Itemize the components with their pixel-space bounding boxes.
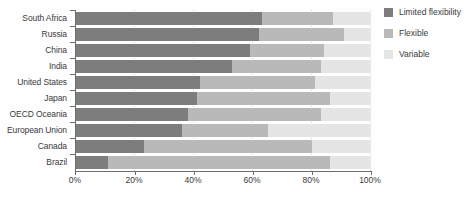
y-axis-category-labels: South AfricaRussiaChinaIndiaUnited State…: [0, 10, 70, 171]
x-axis-tick-label: 40%: [176, 175, 210, 186]
category-label-india: India: [0, 60, 67, 73]
bar-row-russia: [76, 28, 371, 41]
bar-row-european-union: [76, 124, 371, 137]
bar-segment-limited-flexibility: [76, 12, 262, 25]
bar-segment-flexible: [232, 60, 321, 73]
bar-segment-flexible: [262, 12, 333, 25]
y-axis-tick: [70, 90, 75, 91]
bar-segment-limited-flexibility: [76, 92, 197, 105]
bar-segment-variable: [321, 108, 371, 121]
bar-row-china: [76, 44, 371, 57]
bar-row-japan: [76, 92, 371, 105]
stacked-bar-chart: South AfricaRussiaChinaIndiaUnited State…: [0, 0, 473, 205]
bar-segment-flexible: [197, 92, 330, 105]
bar-segment-variable: [333, 12, 371, 25]
bar-segment-limited-flexibility: [76, 140, 144, 153]
bar-segment-variable: [330, 92, 371, 105]
bar-row-canada: [76, 140, 371, 153]
x-axis-tick-label: 80%: [294, 175, 328, 186]
legend-item-limited-flexibility: Limited flexibility: [384, 8, 461, 17]
bar-segment-flexible: [144, 140, 312, 153]
y-axis-tick: [70, 138, 75, 139]
legend-item-variable: Variable: [384, 50, 461, 59]
bar-segment-variable: [324, 44, 371, 57]
y-axis-tick: [70, 58, 75, 59]
bar-segment-flexible: [200, 76, 315, 89]
bar-segment-variable: [344, 28, 371, 41]
legend: Limited flexibilityFlexibleVariable: [384, 8, 461, 59]
bar-row-oecd-oceania: [76, 108, 371, 121]
bar-segment-variable: [315, 76, 371, 89]
bar-row-india: [76, 60, 371, 73]
legend-label: Variable: [399, 50, 430, 59]
category-label-south-africa: South Africa: [0, 12, 67, 25]
y-axis-tick: [70, 74, 75, 75]
category-label-canada: Canada: [0, 140, 67, 153]
category-label-brazil: Brazil: [0, 156, 67, 169]
bar-segment-variable: [268, 124, 371, 137]
x-axis-tick-label: 20%: [117, 175, 151, 186]
category-label-russia: Russia: [0, 28, 67, 41]
bar-segment-flexible: [188, 108, 321, 121]
bar-row-united-states: [76, 76, 371, 89]
legend-swatch-icon: [384, 8, 393, 17]
bar-segment-limited-flexibility: [76, 28, 259, 41]
legend-label: Limited flexibility: [399, 8, 461, 17]
legend-swatch-icon: [384, 29, 393, 38]
bar-segment-flexible: [108, 156, 329, 169]
legend-label: Flexible: [399, 29, 428, 38]
y-axis-tick: [70, 26, 75, 27]
category-label-japan: Japan: [0, 92, 67, 105]
x-axis-tick-labels: 0%20%40%60%80%100%: [0, 175, 473, 187]
screenshot-root: South AfricaRussiaChinaIndiaUnited State…: [0, 0, 473, 205]
category-label-united-states: United States: [0, 76, 67, 89]
y-axis-tick: [70, 10, 75, 11]
bar-segment-limited-flexibility: [76, 44, 250, 57]
y-axis-tick: [70, 122, 75, 123]
category-label-china: China: [0, 44, 67, 57]
bar-segment-limited-flexibility: [76, 108, 188, 121]
bar-segment-variable: [330, 156, 371, 169]
bar-segment-flexible: [250, 44, 324, 57]
category-label-european-union: European Union: [0, 124, 67, 137]
bar-segment-limited-flexibility: [76, 60, 232, 73]
bar-segment-variable: [321, 60, 371, 73]
bar-segment-variable: [312, 140, 371, 153]
x-axis-tick-label: 100%: [353, 175, 387, 186]
bar-row-south-africa: [76, 12, 371, 25]
bar-segment-flexible: [182, 124, 268, 137]
bar-segment-limited-flexibility: [76, 156, 108, 169]
x-axis-tick-label: 0%: [58, 175, 92, 186]
y-axis-tick: [70, 42, 75, 43]
bar-segment-flexible: [259, 28, 345, 41]
y-axis-tick: [70, 154, 75, 155]
bar-row-brazil: [76, 156, 371, 169]
plot-area: [75, 10, 371, 172]
bar-segment-limited-flexibility: [76, 124, 182, 137]
legend-item-flexible: Flexible: [384, 29, 461, 38]
legend-swatch-icon: [384, 50, 393, 59]
y-axis-tick: [70, 106, 75, 107]
x-axis-tick-label: 60%: [235, 175, 269, 186]
bar-segment-limited-flexibility: [76, 76, 200, 89]
category-label-oecd-oceania: OECD Oceania: [0, 108, 67, 121]
